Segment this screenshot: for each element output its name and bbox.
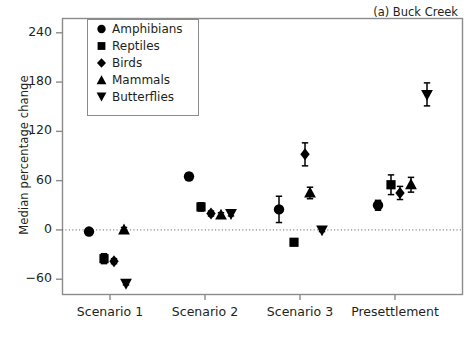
circle-marker-icon (95, 23, 108, 34)
y-axis-label: Median percentage change (17, 35, 31, 275)
data-point-marker (421, 90, 433, 101)
series-birds (109, 143, 404, 267)
square-marker-icon (95, 40, 108, 51)
y-axis-tick-label: 180 (28, 73, 52, 88)
series-reptiles (99, 175, 395, 264)
data-point-marker (304, 187, 316, 198)
legend-item-mammals[interactable]: Mammals (88, 71, 198, 88)
panel-title: (a) Buck Creek (373, 5, 458, 19)
legend-item-birds[interactable]: Birds (88, 54, 198, 71)
data-point-marker (274, 204, 284, 214)
legend: AmphibiansReptilesBirdsMammalsButterflie… (87, 19, 199, 116)
x-axis-tick-label: Presettlement (351, 304, 439, 319)
data-point-marker (405, 178, 417, 189)
legend-item-reptiles[interactable]: Reptiles (88, 37, 198, 54)
legend-item-label: Amphibians (112, 22, 183, 36)
legend-item-label: Birds (112, 56, 142, 70)
data-point-marker (196, 202, 205, 211)
data-point-marker (109, 255, 118, 267)
data-point-marker (118, 224, 130, 235)
data-point-marker (225, 209, 237, 220)
series-amphibians (84, 171, 383, 236)
triangle-up-marker-icon (95, 74, 108, 85)
data-point-marker (386, 180, 395, 189)
x-axis-tick-label: Scenario 1 (77, 304, 143, 319)
x-axis-tick-label: Scenario 2 (172, 304, 238, 319)
data-point-marker (215, 209, 227, 220)
diamond-marker-icon (95, 57, 108, 68)
y-axis-tick-label: 60 (36, 172, 52, 187)
triangle-down-marker-icon (95, 91, 108, 102)
x-axis-tick-label: Scenario 3 (267, 304, 333, 319)
y-axis-tick-label: 0 (44, 221, 52, 236)
data-point-marker (316, 225, 328, 236)
chart-figure: 240180120600−60Scenario 1Scenario 2Scena… (0, 0, 470, 361)
legend-item-amphibians[interactable]: Amphibians (88, 20, 198, 37)
series-mammals (118, 177, 417, 234)
data-point-marker (395, 187, 404, 199)
y-axis-tick-label: 240 (28, 24, 52, 39)
y-axis-tick-label: 120 (28, 122, 52, 137)
data-point-marker (120, 279, 132, 290)
legend-item-label: Reptiles (112, 39, 160, 53)
data-point-marker (206, 208, 215, 220)
legend-item-butterflies[interactable]: Butterflies (88, 88, 198, 105)
data-point-marker (184, 171, 194, 181)
data-point-marker (99, 254, 108, 263)
data-point-marker (84, 226, 94, 236)
data-point-marker (373, 200, 383, 210)
data-point-marker (289, 238, 298, 247)
legend-item-label: Mammals (112, 73, 170, 87)
data-point-marker (300, 148, 309, 160)
legend-item-label: Butterflies (112, 90, 174, 104)
